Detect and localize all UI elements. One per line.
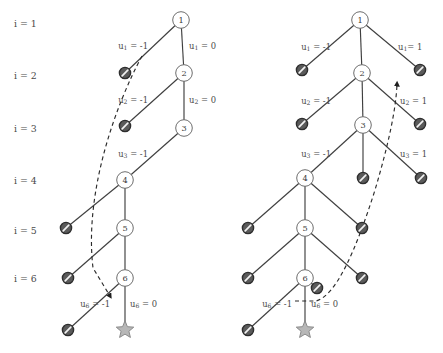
- tree-node-5[interactable]: 5: [297, 220, 314, 237]
- dashed-trajectory-arrow: [91, 56, 142, 296]
- control-input-label: u6 = 0: [311, 299, 338, 309]
- tree-node-6[interactable]: 6: [297, 270, 314, 287]
- control-input-label: u3 = 1: [400, 149, 427, 159]
- tree-node-4[interactable]: 4: [117, 172, 134, 189]
- tree-node-label: 5: [122, 223, 127, 233]
- blocked-node-icon: [242, 222, 253, 233]
- blocked-node-icon: [414, 64, 425, 75]
- blocked-node-icon: [242, 272, 253, 283]
- control-input-label: u6 = -1: [80, 299, 110, 309]
- blocked-node-icon: [357, 172, 368, 183]
- tree-node-1[interactable]: 1: [173, 12, 190, 29]
- control-input-label: u6 = 0: [130, 299, 157, 309]
- control-input-label: u2 = -1: [118, 95, 148, 105]
- tree-node-label: 5: [302, 223, 307, 233]
- control-input-label: u1 = 0: [189, 41, 216, 51]
- right-tree-group: 123456u1 = -1u1= 1u2 = -1u2 = 1u3 = -1u3…: [242, 12, 427, 338]
- tree-node-3[interactable]: 3: [355, 117, 372, 134]
- tree-node-2[interactable]: 2: [176, 65, 193, 82]
- control-input-label: u3 = -1: [118, 149, 148, 159]
- tree-node-label: 2: [359, 68, 364, 78]
- tree-edge: [66, 180, 125, 228]
- tree-node-label: 2: [181, 68, 186, 78]
- tree-node-label: 1: [357, 15, 362, 25]
- tree-node-1[interactable]: 1: [352, 12, 369, 29]
- blocked-node-icon: [356, 222, 367, 233]
- row-label-5: i = 5: [14, 225, 37, 236]
- blocked-node-icon: [62, 272, 73, 283]
- goal-star-icon: [296, 321, 314, 338]
- tree-diagram-canvas: i = 1i = 2i = 3i = 4i = 5i = 6 123456u1 …: [0, 0, 443, 353]
- tree-node-5[interactable]: 5: [117, 220, 134, 237]
- blocked-node-icon: [311, 282, 322, 293]
- row-label-4: i = 4: [14, 175, 37, 186]
- blocked-node-icon: [62, 324, 73, 335]
- control-input-label: u2 = 0: [189, 95, 216, 105]
- tree-node-4[interactable]: 4: [297, 170, 314, 187]
- blocked-node-icon: [414, 118, 425, 129]
- control-input-label: u1= 1: [398, 42, 422, 52]
- blocked-node-icon: [242, 324, 253, 335]
- blocked-node-icon: [296, 64, 307, 75]
- figure-root: i = 1i = 2i = 3i = 4i = 5i = 6 123456u1 …: [0, 0, 443, 353]
- tree-node-label: 1: [178, 15, 183, 25]
- tree-edge: [248, 178, 305, 228]
- blocked-node-icon: [296, 118, 307, 129]
- goal-star-icon: [116, 321, 134, 338]
- tree-node-label: 6: [302, 273, 307, 283]
- tree-node-label: 6: [122, 273, 127, 283]
- control-input-label: u2 = 1: [400, 96, 427, 106]
- row-labels-group: i = 1i = 2i = 3i = 4i = 5i = 6: [14, 18, 37, 284]
- row-label-6: i = 6: [14, 273, 37, 284]
- row-label-3: i = 3: [14, 123, 37, 134]
- tree-node-2[interactable]: 2: [354, 65, 371, 82]
- control-input-label: u3 = -1: [301, 149, 331, 159]
- blocked-node-icon: [356, 272, 367, 283]
- left-tree-group: 123456u1 = -1u1 = 0u2 = -1u2 = 0u3 = -1u…: [60, 12, 216, 338]
- tree-node-label: 4: [302, 173, 307, 183]
- tree-node-label: 4: [122, 175, 127, 185]
- tree-edge: [68, 228, 125, 278]
- tree-edge: [248, 228, 305, 278]
- blocked-node-icon: [119, 120, 130, 131]
- tree-node-6[interactable]: 6: [117, 270, 134, 287]
- blocked-node-icon: [415, 172, 426, 183]
- control-input-label: u1 = -1: [118, 41, 148, 51]
- row-label-1: i = 1: [14, 18, 37, 29]
- control-input-label: u2 = -1: [301, 96, 331, 106]
- tree-edge: [305, 178, 362, 228]
- blocked-node-icon: [60, 222, 71, 233]
- row-label-2: i = 2: [14, 70, 37, 81]
- tree-node-3[interactable]: 3: [176, 120, 193, 137]
- tree-edge: [305, 228, 362, 278]
- control-input-label: u6 = -1: [262, 299, 292, 309]
- blocked-node-icon: [119, 67, 130, 78]
- control-input-label: u1 = -1: [301, 42, 331, 52]
- tree-node-label: 3: [181, 123, 186, 133]
- tree-node-label: 3: [360, 120, 365, 130]
